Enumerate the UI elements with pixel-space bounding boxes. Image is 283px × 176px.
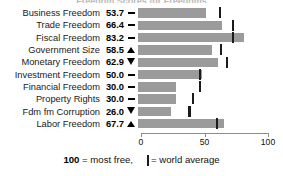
- value-bar: [138, 119, 224, 128]
- row-value: 83.2: [103, 33, 124, 43]
- freedom-scores-chart: Freedom Scores for Freedoms Business Fre…: [0, 0, 283, 176]
- x-axis: 050100: [141, 133, 268, 134]
- row-label: Fdm fm Corruption: [0, 107, 103, 117]
- row-plot: [138, 19, 283, 31]
- chart-rows: Business Freedom53.7Trade Freedom66.4Fis…: [0, 7, 283, 130]
- world-average-marker: [192, 93, 194, 104]
- trend-glyph: [127, 47, 135, 53]
- trend-glyph: [128, 24, 135, 26]
- chart-row: Business Freedom53.7: [0, 7, 283, 19]
- chart-row: Labor Freedom67.7: [0, 118, 283, 130]
- row-label: Labor Freedom: [0, 119, 103, 129]
- chart-row: Investment Freedom50.0: [0, 68, 283, 80]
- row-value: 30.0: [103, 82, 124, 92]
- row-value: 66.4: [103, 20, 124, 30]
- axis-tick-label: 50: [200, 137, 210, 147]
- world-average-marker: [199, 69, 201, 80]
- row-label: Government Size: [0, 45, 103, 55]
- row-plot: [138, 118, 283, 130]
- row-value: 30.0: [103, 94, 124, 104]
- trend-glyph: [128, 86, 135, 88]
- trend-flat-icon: [124, 82, 138, 92]
- trend-glyph: [128, 98, 135, 100]
- world-average-marker: [232, 32, 234, 43]
- row-value: 62.9: [103, 57, 124, 67]
- row-label: Business Freedom: [0, 8, 103, 18]
- world-average-marker: [199, 81, 201, 92]
- world-average-marker: [216, 118, 218, 129]
- row-value: 50.0: [103, 70, 124, 80]
- trend-glyph: [127, 121, 135, 127]
- value-bar: [138, 58, 218, 67]
- row-label: Investment Freedom: [0, 70, 103, 80]
- value-bar: [138, 82, 176, 91]
- trend-up-icon: [124, 45, 138, 55]
- chart-row: Fdm fm Corruption26.0: [0, 105, 283, 117]
- axis-tick: [205, 133, 206, 137]
- row-label: Fiscal Freedom: [0, 33, 103, 43]
- world-average-marker-icon: [147, 155, 149, 166]
- row-plot: [138, 68, 283, 80]
- world-average-marker: [220, 44, 222, 55]
- trend-flat-icon: [124, 8, 138, 18]
- row-plot: [138, 56, 283, 68]
- legend-scale-value: 100: [63, 154, 79, 166]
- row-value: 58.5: [103, 45, 124, 55]
- trend-glyph: [128, 37, 135, 39]
- value-bar: [138, 94, 176, 103]
- trend-up-icon: [124, 119, 138, 129]
- trend-glyph: [128, 109, 134, 114]
- chart-title: Freedom Scores for Freedoms: [0, 0, 283, 3]
- trend-flat-icon: [124, 20, 138, 30]
- world-average-marker: [188, 106, 190, 117]
- value-bar: [138, 33, 244, 42]
- value-bar: [138, 70, 202, 79]
- trend-down-icon: [124, 57, 138, 67]
- trend-down-icon: [124, 107, 138, 117]
- row-plot: [138, 93, 283, 105]
- value-bar: [138, 21, 222, 30]
- row-label: Financial Freedom: [0, 82, 103, 92]
- row-plot: [138, 44, 283, 56]
- row-value: 26.0: [103, 107, 124, 117]
- trend-flat-icon: [124, 33, 138, 43]
- value-bar: [138, 107, 171, 116]
- row-label: Monetary Freedom: [0, 57, 103, 67]
- row-label: Trade Freedom: [0, 20, 103, 30]
- chart-row: Financial Freedom30.0: [0, 81, 283, 93]
- chart-legend: 100 = most free, = world average: [0, 154, 283, 166]
- trend-glyph: [128, 60, 134, 65]
- value-bar: [138, 45, 212, 54]
- chart-row: Monetary Freedom62.9: [0, 56, 283, 68]
- axis-tick-label: 100: [261, 137, 275, 147]
- trend-glyph: [128, 12, 135, 14]
- world-average-marker: [232, 20, 234, 31]
- chart-row: Trade Freedom66.4: [0, 19, 283, 31]
- trend-glyph: [128, 74, 135, 76]
- row-value: 67.7: [103, 119, 124, 129]
- axis-tick-label: 0: [139, 137, 144, 147]
- chart-row: Government Size58.5: [0, 44, 283, 56]
- chart-row: Fiscal Freedom83.2: [0, 32, 283, 44]
- axis-tick: [141, 133, 142, 137]
- legend-marker-text: = world average: [151, 154, 220, 166]
- trend-flat-icon: [124, 94, 138, 104]
- row-plot: [138, 32, 283, 44]
- row-label: Property Rights: [0, 94, 103, 104]
- world-average-marker: [226, 57, 228, 68]
- legend-scale-text: = most free,: [82, 154, 133, 166]
- row-plot: [138, 105, 283, 117]
- trend-flat-icon: [124, 70, 138, 80]
- row-plot: [138, 81, 283, 93]
- world-average-marker: [219, 7, 221, 18]
- axis-tick: [268, 133, 269, 137]
- value-bar: [138, 8, 206, 17]
- chart-row: Property Rights30.0: [0, 93, 283, 105]
- row-value: 53.7: [103, 8, 124, 18]
- row-plot: [138, 7, 283, 19]
